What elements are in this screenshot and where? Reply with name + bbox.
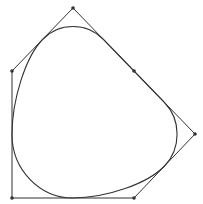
control-polygon bbox=[12, 8, 195, 198]
control-points bbox=[10, 6, 197, 200]
control-point bbox=[10, 69, 14, 73]
control-point bbox=[132, 196, 136, 200]
bspline-curve bbox=[12, 27, 177, 198]
control-point bbox=[193, 132, 197, 136]
control-point bbox=[10, 196, 14, 200]
control-point bbox=[132, 69, 136, 73]
bspline-diagram bbox=[0, 0, 203, 204]
control-point bbox=[71, 6, 75, 10]
